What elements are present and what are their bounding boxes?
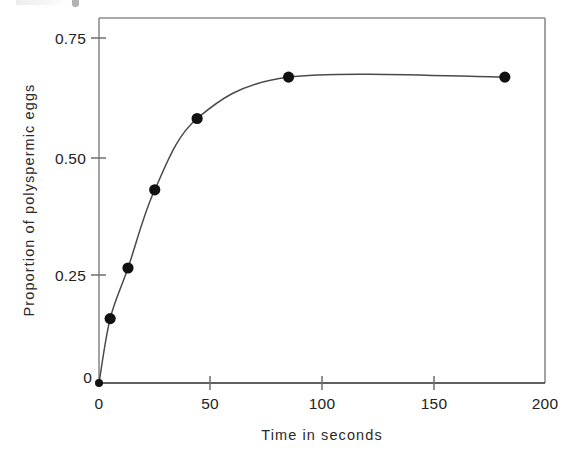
x-tick-label-100: 100 [309,395,336,412]
data-series-layer [95,72,510,388]
y-tick-label-050: 0.50 [55,150,86,167]
data-point-marker [192,113,203,124]
x-tick-label-0: 0 [95,395,104,412]
x-tick-label-200: 200 [532,395,559,412]
y-axis-title: Proportion of polyspermic eggs [21,84,37,317]
figure-canvas: 0.75 0.50 0.25 0 0 50 100 150 200 Time i… [0,0,573,461]
data-point-marker [95,379,103,387]
y-tick-label-075: 0.75 [55,30,86,47]
x-tick-label-50: 50 [201,395,219,412]
data-point-marker [499,72,510,83]
data-point-marker [105,313,116,324]
data-point-marker [149,184,160,195]
data-point-marker [122,262,133,273]
x-axis-title: Time in seconds [261,427,383,443]
series-curve [99,74,505,383]
y-tick-label-025: 0.25 [55,267,86,284]
plot-frame [99,18,545,383]
polyspermy-time-course-chart: 0.75 0.50 0.25 0 0 50 100 150 200 Time i… [0,0,573,461]
y-tick-label-0: 0 [83,369,92,386]
data-point-marker [283,72,294,83]
x-tick-label-150: 150 [421,395,448,412]
